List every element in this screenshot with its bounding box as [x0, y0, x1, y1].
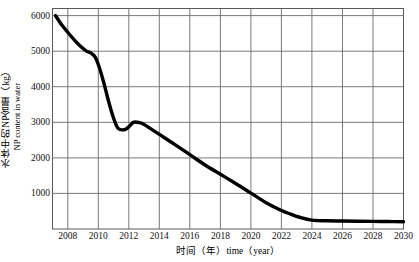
gridlines	[53, 9, 404, 230]
data-line-np-content	[56, 16, 404, 222]
chart-root: 水体中的NP含量（kg） NP content in water 1000200…	[0, 0, 419, 262]
plot-area	[0, 0, 419, 262]
x-axis-title: 时间（年）time（year）	[52, 243, 404, 257]
plot-border	[53, 9, 404, 230]
